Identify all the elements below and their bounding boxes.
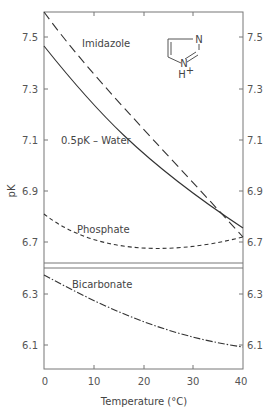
y-tick-label: 6.9 bbox=[22, 186, 38, 197]
label-water: 0.5pK – Water bbox=[61, 135, 132, 146]
y-tick-label: 6.7 bbox=[22, 237, 38, 248]
y-tick-label: 7.1 bbox=[22, 135, 38, 146]
structure-h: H bbox=[178, 69, 186, 80]
x-tick-label: 0 bbox=[42, 376, 48, 387]
x-ticks bbox=[94, 12, 193, 369]
y-tick-label-right: 7.5 bbox=[247, 32, 263, 43]
structure-n-top: N bbox=[195, 34, 202, 45]
y-ticks bbox=[44, 37, 243, 345]
series-imidazole bbox=[44, 12, 243, 237]
pk-temperature-chart: 7.5 7.3 7.1 6.9 6.7 6.3 6.1 7.5 7.3 7.1 … bbox=[0, 0, 270, 411]
plot-frame bbox=[44, 12, 243, 369]
x-tick-label: 40 bbox=[235, 376, 248, 387]
label-imidazole: Imidazole bbox=[82, 38, 130, 49]
structure-plus: + bbox=[186, 65, 194, 76]
y-tick-label: 7.5 bbox=[22, 32, 38, 43]
label-phosphate: Phosphate bbox=[77, 224, 130, 235]
x-axis-title: Temperature (°C) bbox=[100, 396, 187, 407]
x-tick-label: 10 bbox=[88, 376, 101, 387]
y-axis-title: pK bbox=[6, 184, 17, 197]
y-tick-label-right: 7.1 bbox=[247, 135, 263, 146]
y-tick-label: 6.3 bbox=[22, 289, 38, 300]
series-phosphate bbox=[44, 214, 243, 248]
y-tick-label-right: 6.3 bbox=[247, 289, 263, 300]
y-tick-label: 7.3 bbox=[22, 84, 38, 95]
y-tick-label-right: 6.1 bbox=[247, 340, 263, 351]
y-tick-label-right: 7.3 bbox=[247, 84, 263, 95]
x-tick-label: 30 bbox=[187, 376, 200, 387]
y-tick-label: 6.1 bbox=[22, 340, 38, 351]
y-tick-label-right: 6.9 bbox=[247, 186, 263, 197]
y-tick-label-right: 6.7 bbox=[247, 237, 263, 248]
x-tick-label: 20 bbox=[138, 376, 151, 387]
label-bicarbonate: Bicarbonate bbox=[72, 279, 132, 290]
